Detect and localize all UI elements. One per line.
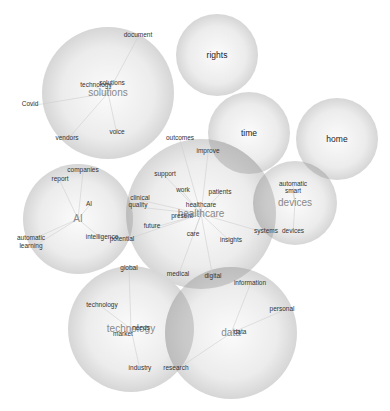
term-label: voice (109, 128, 125, 135)
diagram-canvas: solutionsdocumenttechnologysolutionsCovi… (0, 0, 390, 411)
term-label: Covid (22, 100, 39, 107)
term-label: personal (270, 305, 295, 313)
term-label: systems (254, 227, 279, 235)
term-label: vendors (55, 134, 79, 141)
term-label: document (124, 31, 153, 38)
term-label: future (144, 222, 161, 229)
cluster-label-devices: devices (278, 197, 312, 208)
term-label: research (163, 364, 189, 371)
term-label: healthcare (186, 201, 217, 208)
term-label: data (234, 328, 247, 335)
term-label: care (187, 230, 200, 237)
term-label: clinical (130, 194, 150, 201)
term-label: medical (167, 270, 190, 277)
term-label: market (113, 330, 133, 337)
term-label: quality (129, 201, 149, 209)
term-label: information (234, 279, 267, 286)
term-label: solutions (99, 79, 125, 86)
term-label: devices (282, 227, 305, 234)
term-label: smart (285, 187, 301, 194)
term-label: potential (110, 235, 135, 243)
term-label: patients (209, 188, 233, 196)
term-label: digital (205, 272, 223, 280)
cluster-label-ai: AI (73, 213, 82, 224)
term-label: companies (67, 166, 99, 174)
term-label: automatic (279, 180, 308, 187)
term-label: needs (132, 324, 150, 331)
term-label: report (52, 175, 69, 183)
cluster-label-time: time (241, 128, 257, 138)
term-label: insights (220, 236, 243, 244)
term-label: global (120, 264, 138, 272)
term-label: present (171, 212, 193, 220)
term-label: outcomes (166, 134, 195, 141)
term-label: support (154, 170, 176, 178)
term-label: work (175, 186, 190, 193)
term-label: AI (86, 200, 92, 207)
term-label: improve (196, 147, 220, 155)
term-label: technology (86, 301, 118, 309)
cluster-label-rights: rights (207, 50, 228, 60)
cluster-label-solutions: solutions (88, 87, 127, 98)
term-label: industry (129, 364, 153, 372)
term-label: learning (19, 242, 43, 250)
cluster-label-home: home (326, 134, 348, 144)
bubble-diagram: solutionsdocumenttechnologysolutionsCovi… (0, 0, 390, 411)
term-label: automatic (17, 234, 46, 241)
